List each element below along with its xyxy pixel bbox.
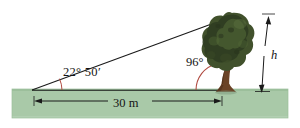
ground-band — [12, 89, 288, 118]
tree-illustration — [202, 12, 255, 95]
tree-height-diagram: 22° 50′ 96° 30 m h — [0, 0, 300, 128]
tree-canopy — [202, 12, 255, 71]
base-distance-label: 30 m — [113, 97, 138, 110]
angle-elevation-arc — [60, 79, 63, 90]
angle-at-tree-label: 96° — [186, 56, 204, 69]
diagram-canvas — [0, 0, 300, 128]
angle-of-elevation-label: 22° 50′ — [63, 66, 101, 79]
height-label: h — [271, 49, 277, 62]
